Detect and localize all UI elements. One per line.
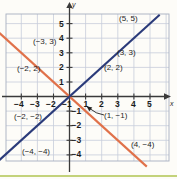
y-tick-label-neg4: −4	[72, 150, 82, 159]
y-tick-label-neg1: −1	[72, 107, 82, 116]
point-label-neg2-neg2: (−2, −2)	[14, 113, 42, 121]
y-tick-label-5: 5	[59, 20, 64, 29]
point-label-neg4-neg4: (−4, −4)	[22, 148, 50, 156]
coordinate-plane-figure: −4 −3 −2 −1 1 2 3 4 5 5 4 3 2 1 −1 −2 −3…	[0, 0, 177, 179]
x-tick-label-4: 4	[131, 100, 136, 109]
y-tick-label-4: 4	[59, 34, 64, 43]
bottom-divider	[0, 175, 177, 177]
x-tick-label-neg3: −3	[30, 100, 40, 109]
y-axis-name: y	[72, 1, 76, 8]
x-tick-label-neg2: −2	[46, 100, 56, 109]
x-axis-name: x	[170, 100, 174, 107]
x-tick-label-neg4: −4	[14, 100, 24, 109]
y-tick-label-2: 2	[59, 63, 64, 72]
y-tick-label-1: 1	[59, 78, 64, 87]
x-tick-label-1: 1	[84, 100, 89, 109]
grid-background	[6, 14, 169, 161]
y-tick-label-neg2: −2	[72, 121, 82, 130]
point-label-5-5: (5, 5)	[119, 15, 138, 23]
point-label-3-3: (3, 3)	[117, 49, 136, 57]
point-label-4-neg4: (4, −4)	[131, 141, 154, 149]
point-label-1-neg1: (1, −1)	[104, 112, 127, 120]
x-tick-label-5: 5	[147, 100, 152, 109]
point-label-neg3-3: (−3, 3)	[33, 38, 56, 46]
y-tick-label-3: 3	[59, 49, 64, 58]
x-tick-label-neg1: −1	[62, 100, 72, 109]
y-tick-label-neg3: −3	[72, 136, 82, 145]
point-label-2-2: (2, 2)	[104, 64, 123, 72]
x-tick-label-2: 2	[99, 100, 104, 109]
point-label-neg2-2: (−2, 2)	[17, 65, 40, 73]
x-tick-label-3: 3	[115, 100, 120, 109]
